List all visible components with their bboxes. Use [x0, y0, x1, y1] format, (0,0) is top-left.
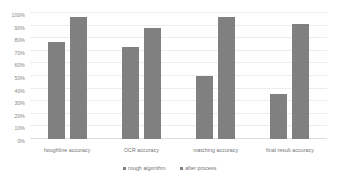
bar-group [30, 13, 104, 139]
bar[interactable] [144, 28, 161, 139]
legend-swatch-icon [180, 167, 184, 171]
bar-group [104, 13, 178, 139]
x-axis-category-label: final result accuracy [253, 143, 327, 157]
bar-group-bars [104, 13, 178, 139]
bar[interactable] [292, 24, 309, 139]
bar-group-bars [179, 13, 253, 139]
bar-group [253, 13, 327, 139]
legend-swatch-icon [123, 167, 127, 171]
x-axis-category-label: houghline accuracy [30, 143, 104, 157]
bar-group-bars [253, 13, 327, 139]
legend-label: rough algorithm [128, 166, 166, 171]
bar[interactable] [70, 17, 87, 139]
bar-group [179, 13, 253, 139]
bar-group-bars [30, 13, 104, 139]
bar[interactable] [196, 76, 213, 139]
y-axis: 0%10%20%30%40%50%60%70%80%90%100% [0, 13, 28, 139]
bar-chart: 0%10%20%30%40%50%60%70%80%90%100% houghl… [0, 0, 339, 183]
legend-label: after process [185, 166, 216, 171]
bar[interactable] [48, 42, 65, 139]
bar-groups [30, 13, 327, 139]
legend-item[interactable]: rough algorithm [123, 166, 166, 171]
chart-legend: rough algorithmafter process [0, 166, 339, 171]
legend-item[interactable]: after process [180, 166, 217, 171]
x-axis-category-label: OCR accuracy [104, 143, 178, 157]
plot-area [30, 13, 327, 139]
bar[interactable] [270, 94, 287, 139]
x-axis-category-label: matching accuracy [179, 143, 253, 157]
bar[interactable] [122, 47, 139, 139]
x-axis-category-labels: houghline accuracyOCR accuracymatching a… [30, 143, 327, 157]
bar[interactable] [218, 17, 235, 139]
